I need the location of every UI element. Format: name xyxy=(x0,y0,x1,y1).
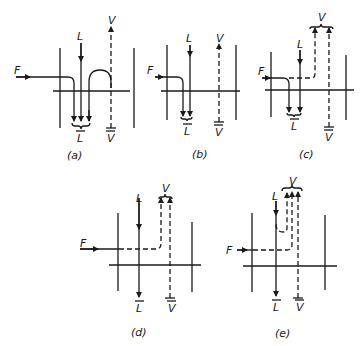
label-liquid-out: L xyxy=(77,132,83,145)
label-liquid-in: L xyxy=(186,32,192,45)
label-feed: F xyxy=(226,244,233,257)
caption-b: (b) xyxy=(192,148,208,161)
caption-a: (a) xyxy=(67,149,82,162)
feed-liquid-part xyxy=(262,78,289,112)
feed-vapor-part xyxy=(119,198,161,249)
label-liquid-in: L xyxy=(77,30,83,43)
vapor-loop xyxy=(89,70,111,121)
label-vapor-out: V xyxy=(216,32,225,45)
label-vapor-out: V xyxy=(162,182,171,195)
caption-e: (e) xyxy=(275,327,290,340)
label-vapor-out: V xyxy=(318,11,327,24)
brace xyxy=(72,123,90,129)
label-liquid-in: L xyxy=(272,190,278,203)
label-vapor-in: V xyxy=(296,301,305,314)
feed-stage-diagram: F L V L V (a) F L V L V (b) xyxy=(0,0,362,346)
label-vapor-out: V xyxy=(289,175,298,188)
panel-e: L V F L V (e) xyxy=(226,175,337,340)
label-feed: F xyxy=(258,65,265,78)
label-liquid-out: L xyxy=(273,301,279,314)
label-vapor-in: V xyxy=(325,131,334,144)
label-liquid-out: L xyxy=(184,125,190,138)
brace xyxy=(181,117,192,121)
panel-d: L V F L V (d) xyxy=(80,182,201,339)
label-vapor-in: V xyxy=(215,126,224,139)
label-feed: F xyxy=(147,64,154,77)
label-liquid-out: L xyxy=(136,302,142,315)
label-feed: F xyxy=(80,237,87,250)
label-vapor-in: V xyxy=(168,302,177,315)
label-vapor-in: V xyxy=(107,132,116,145)
caption-c: (c) xyxy=(299,148,314,161)
label-liquid-in: L xyxy=(297,38,303,51)
label-liquid-in: L xyxy=(136,192,142,205)
feed-vapor-part xyxy=(289,28,315,78)
label-vapor-out: V xyxy=(108,14,117,27)
brace xyxy=(287,113,301,117)
label-liquid-out: L xyxy=(291,120,297,133)
panel-b: F L V L V (b) xyxy=(147,32,240,161)
label-feed: F xyxy=(14,64,21,77)
panel-a: F L V L V (a) xyxy=(14,14,134,162)
panel-c: F L V L V (c) xyxy=(258,11,354,161)
feed-stream xyxy=(16,77,74,121)
caption-d: (d) xyxy=(131,326,147,339)
feed-stream xyxy=(155,77,183,116)
